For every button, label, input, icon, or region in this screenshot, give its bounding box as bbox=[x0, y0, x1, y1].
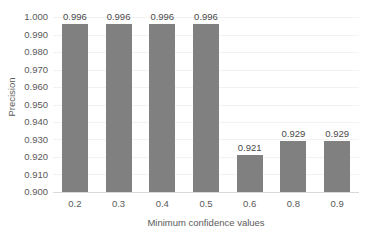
x-axis-tick-label: 0.3 bbox=[97, 198, 141, 210]
x-axis-tick-label: 0.9 bbox=[315, 198, 359, 210]
bar-slot: 0.929 bbox=[315, 17, 359, 192]
bar-slot: 0.996 bbox=[53, 17, 97, 192]
y-axis-tick-label: 0.990 bbox=[18, 29, 48, 41]
bar-value-label: 0.921 bbox=[238, 142, 262, 153]
x-axis-tick-label: 0.5 bbox=[184, 198, 228, 210]
y-axis-tick-label: 0.910 bbox=[18, 169, 48, 181]
bar-value-label: 0.996 bbox=[107, 11, 131, 22]
bar-value-label: 0.996 bbox=[150, 11, 174, 22]
bar-slot: 0.921 bbox=[228, 17, 272, 192]
y-axis-tick-label: 1.000 bbox=[18, 11, 48, 23]
bar-slot: 0.996 bbox=[184, 17, 228, 192]
bar[interactable] bbox=[149, 24, 175, 192]
plot-area: 0.9960.9960.9960.9960.9210.9290.929 bbox=[53, 17, 359, 193]
y-axis-tick-labels: 1.0000.9900.9800.9700.9600.9500.9400.930… bbox=[18, 0, 48, 236]
bar-value-label: 0.929 bbox=[325, 128, 349, 139]
precision-bar-chart: Precision 1.0000.9900.9800.9700.9600.950… bbox=[0, 0, 366, 236]
bar[interactable] bbox=[280, 141, 306, 192]
bar-value-label: 0.996 bbox=[63, 11, 87, 22]
y-axis-tick-label: 0.970 bbox=[18, 64, 48, 76]
x-axis-tick-label: 0.2 bbox=[53, 198, 97, 210]
x-axis-tick-label: 0.4 bbox=[140, 198, 184, 210]
bar[interactable] bbox=[62, 24, 88, 192]
y-axis-title: Precision bbox=[5, 47, 19, 147]
bar[interactable] bbox=[193, 24, 219, 192]
bar[interactable] bbox=[106, 24, 132, 192]
bar-slot: 0.929 bbox=[272, 17, 316, 192]
bar-value-label: 0.929 bbox=[282, 128, 306, 139]
bar[interactable] bbox=[237, 155, 263, 192]
y-axis-tick-label: 0.940 bbox=[18, 116, 48, 128]
x-axis-title: Minimum confidence values bbox=[53, 216, 359, 230]
x-axis-tick-label: 0.6 bbox=[228, 198, 272, 210]
y-axis-tick-label: 0.980 bbox=[18, 46, 48, 58]
y-axis-tick-label: 0.950 bbox=[18, 99, 48, 111]
bar[interactable] bbox=[324, 141, 350, 192]
y-axis-tick-label: 0.930 bbox=[18, 134, 48, 146]
y-axis-tick-label: 0.920 bbox=[18, 151, 48, 163]
bar-value-label: 0.996 bbox=[194, 11, 218, 22]
bar-slot: 0.996 bbox=[140, 17, 184, 192]
x-axis-tick-label: 0.8 bbox=[272, 198, 316, 210]
y-axis-tick-label: 0.960 bbox=[18, 81, 48, 93]
x-axis-line bbox=[53, 192, 359, 193]
bar-slot: 0.996 bbox=[97, 17, 141, 192]
y-axis-tick-label: 0.900 bbox=[18, 186, 48, 198]
